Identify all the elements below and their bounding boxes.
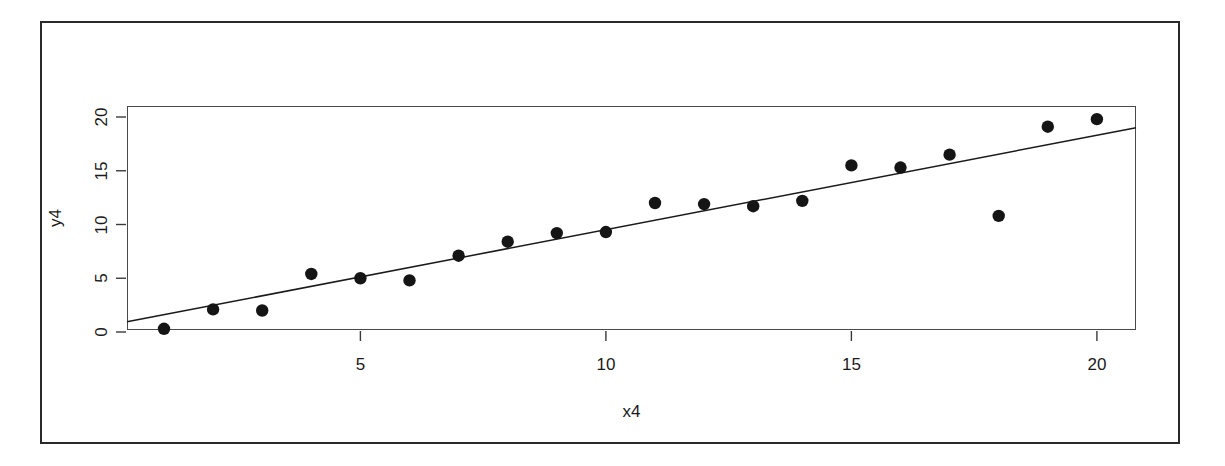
regression-line-path — [127, 128, 1136, 322]
x-tick-label: 20 — [1075, 355, 1119, 375]
data-point — [1042, 120, 1054, 132]
data-point — [452, 249, 464, 261]
data-point — [354, 272, 366, 284]
data-point — [747, 200, 759, 212]
x-tick-label: 5 — [338, 355, 382, 375]
y-tick-label: 0 — [92, 312, 112, 352]
plot-canvas — [0, 0, 1225, 466]
data-points — [158, 113, 1103, 335]
data-point — [943, 148, 955, 160]
y-axis-label: y4 — [46, 198, 66, 238]
data-point — [993, 210, 1005, 222]
x-axis-label: x4 — [572, 402, 692, 422]
y-tick-label: 20 — [92, 97, 112, 137]
data-point — [1091, 113, 1103, 125]
y-tick-label: 5 — [92, 258, 112, 298]
y-tick-label: 15 — [92, 151, 112, 191]
data-point — [698, 198, 710, 210]
data-point — [600, 226, 612, 238]
data-point — [796, 195, 808, 207]
data-point — [207, 303, 219, 315]
x-tick-label: 10 — [584, 355, 628, 375]
data-point — [502, 236, 514, 248]
regression-line — [127, 128, 1136, 322]
data-point — [158, 323, 170, 335]
x-tick-label: 15 — [829, 355, 873, 375]
data-point — [845, 159, 857, 171]
y-tick-label: 10 — [92, 205, 112, 245]
data-point — [256, 304, 268, 316]
data-point — [551, 227, 563, 239]
data-point — [649, 197, 661, 209]
scatter-plot-figure: y4 x4 5101520 05101520 — [0, 0, 1225, 466]
data-point — [403, 274, 415, 286]
data-point — [894, 161, 906, 173]
data-point — [305, 268, 317, 280]
